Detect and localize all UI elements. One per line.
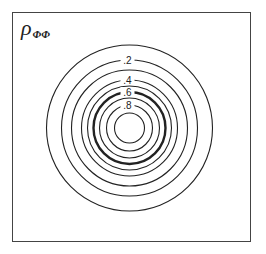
contour-label: .4: [123, 75, 132, 86]
contour-level-0-5: [88, 86, 172, 170]
contour-label: .6: [123, 87, 132, 98]
contour-label: .8: [123, 100, 132, 111]
contour-level-0-9: [115, 113, 145, 143]
contour-plot: .2.4.6.8: [0, 0, 266, 254]
contour-level-0-8: [107, 105, 153, 151]
contour-lines: [47, 45, 213, 211]
contour-label: .2: [123, 55, 132, 66]
contour-labels: .2.4.6.8: [121, 55, 135, 111]
